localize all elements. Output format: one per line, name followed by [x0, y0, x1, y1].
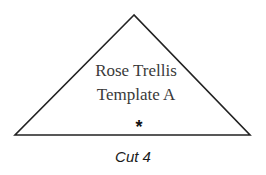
- template-title-line2: Template A: [97, 85, 176, 104]
- template-diagram: Rose Trellis Template A * Cut 4: [0, 0, 266, 175]
- template-title-line1: Rose Trellis: [95, 61, 177, 80]
- cut-count-label: Cut 4: [115, 148, 151, 165]
- grain-mark-asterisk: *: [135, 117, 142, 137]
